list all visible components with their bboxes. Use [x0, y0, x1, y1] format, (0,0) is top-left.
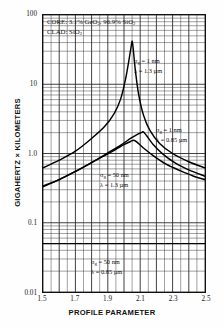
core-sub-b: 2	[133, 21, 135, 26]
x-tick-label: 2.5	[202, 295, 211, 303]
sigma-val-1: = 1 nm	[140, 57, 160, 64]
clad-species: SiO	[69, 28, 80, 35]
curve-label-2-line2: λ = 0.85 µm	[156, 136, 187, 144]
core-comma: ,	[100, 18, 102, 25]
x-tick-label: 1.9	[103, 295, 112, 303]
curve-label-2: σg = 1 nm λ = 0.85 µm	[156, 126, 187, 145]
core-prefix: CORE:	[47, 18, 67, 25]
plot-area: CORE: 3.1% GeO2, 96.9% SiO2 CLAD: SiO2 σ…	[42, 14, 206, 293]
core-species-a: GeO	[85, 18, 98, 25]
curve-label-1: σg = 1 nm λ = 1.3 µm	[134, 57, 162, 76]
curve-label-2-line1: σg = 1 nm	[156, 126, 187, 136]
composition-clad: CLAD: SiO2	[47, 27, 82, 38]
sigma-val-2: = 1 nm	[162, 126, 182, 133]
curve-label-3-line2: λ = 1.3 µm	[100, 181, 129, 189]
curve-label-4-line1: σg = 50 nm	[91, 258, 122, 268]
curve-label-3: σg = 50 nm λ = 1.3 µm	[100, 171, 129, 190]
x-tick-label: 1.5	[38, 295, 47, 303]
chart-svg	[43, 15, 205, 292]
y-axis-title: GIGAHERTZ × KILOMETERS	[13, 78, 22, 228]
y-tick-label: 1.0	[28, 150, 40, 158]
figure: 100101.00.10.01 CORE: 3.1% GeO2, 96.9% S…	[0, 0, 224, 328]
curve-label-4-line2: λ = 0.85 µm	[91, 268, 122, 276]
clad-prefix: CLAD:	[47, 28, 67, 35]
y-tick-label: 10	[30, 80, 40, 88]
clad-sub: 2	[80, 30, 82, 35]
x-tick-label: 2.1	[136, 295, 145, 303]
core-value-b: 96.9%	[103, 18, 121, 25]
x-axis-title: PROFILE PARAMETER	[0, 308, 224, 317]
sigma-val-4: = 50 nm	[97, 258, 120, 265]
gridlines	[43, 15, 205, 292]
y-tick-label: 0.1	[28, 219, 40, 227]
core-species-b: SiO	[123, 18, 134, 25]
curve-label-3-line1: σg = 50 nm	[100, 171, 129, 181]
x-axis-tick-labels: 1.51.71.92.12.32.5	[42, 295, 206, 309]
curve-label-4: σg = 50 nm λ = 0.85 µm	[91, 258, 122, 277]
curve-label-1-line1: σg = 1 nm	[134, 57, 162, 67]
sigma-val-3: = 50 nm	[106, 171, 129, 178]
x-tick-label: 1.7	[70, 295, 79, 303]
curve-label-1-line2: λ = 1.3 µm	[134, 67, 162, 75]
x-tick-label: 2.3	[169, 295, 178, 303]
y-tick-label: 100	[26, 10, 40, 18]
core-value-a: 3.1%	[69, 18, 83, 25]
